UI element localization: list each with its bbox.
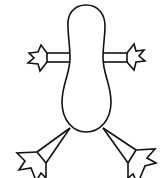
left-foot-icon: [17, 152, 37, 178]
right-foot-icon: [136, 149, 156, 178]
left-leg: [17, 128, 70, 178]
creature-figure: [0, 0, 164, 178]
left-hand-icon: [28, 45, 47, 71]
creature-body: [62, 5, 111, 132]
right-arm: [103, 44, 145, 70]
left-arm: [28, 45, 70, 71]
right-leg: [103, 128, 156, 178]
right-hand-icon: [127, 44, 145, 70]
